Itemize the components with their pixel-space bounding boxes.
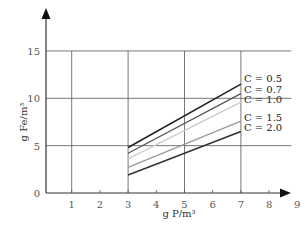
x-tick-label: 7	[238, 199, 244, 210]
y-tick-label: 15	[27, 46, 40, 57]
x-tick-label: 6	[210, 199, 216, 210]
x-tick-label: 2	[97, 199, 103, 210]
legend-label: C = 1.0	[244, 94, 282, 105]
x-axis-label: g P/m³	[162, 208, 195, 219]
y-axis-label: g Fe/m³	[18, 103, 29, 142]
x-axis-arrow-icon	[280, 189, 291, 198]
x-tick-label: 4	[153, 199, 159, 210]
x-tick-label: 1	[69, 199, 75, 210]
line-chart: 123456789051015 C = 0.5C = 0.7C = 1.0C =…	[0, 0, 305, 230]
x-tick-label: 9	[294, 199, 300, 210]
legend: C = 0.5C = 0.7C = 1.0C = 1.5C = 2.0	[244, 73, 282, 133]
x-tick-label: 3	[125, 199, 131, 210]
legend-label: C = 0.5	[244, 73, 282, 84]
y-axis-arrow-icon	[42, 8, 51, 19]
y-tick-label: 10	[27, 93, 40, 104]
y-tick-label: 0	[34, 188, 40, 199]
y-tick-label: 5	[34, 141, 40, 152]
legend-label: C = 2.0	[244, 122, 282, 133]
x-tick-label: 8	[266, 199, 272, 210]
